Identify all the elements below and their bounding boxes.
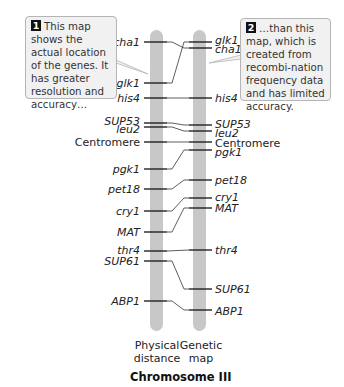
callout-2-number: 2 bbox=[246, 22, 256, 33]
callout-1: 1This map shows the actual location of t… bbox=[25, 16, 117, 99]
chromosome-diagram: cha1glk1his4SUP53leu2Centromerepgk1pet18… bbox=[0, 0, 344, 387]
callout-2-pointer bbox=[209, 55, 241, 63]
physical-label-abp1: ABP1 bbox=[110, 295, 140, 308]
callout-2-text: …than this map, which is created from re… bbox=[246, 23, 325, 112]
connector-mat bbox=[167, 208, 189, 232]
connector-cry1 bbox=[167, 198, 189, 211]
connector-leu2 bbox=[167, 127, 189, 131]
genetic-label-pgk1: pgk1 bbox=[214, 146, 242, 159]
physical-label-pet18: pet18 bbox=[107, 183, 140, 196]
connector-sup61 bbox=[167, 261, 189, 289]
physical-label-line2: distance bbox=[130, 352, 184, 365]
callout-2: 2…than this map, which is created from r… bbox=[240, 18, 331, 101]
physical-label-leu2: leu2 bbox=[116, 123, 140, 136]
physical-label-pgk1: pgk1 bbox=[112, 163, 140, 176]
physical-distance-label: Physical distance bbox=[130, 339, 184, 365]
physical-label-line1: Physical bbox=[130, 339, 184, 352]
marker-connectors bbox=[167, 42, 189, 310]
connector-abp1 bbox=[167, 301, 189, 310]
physical-label-his4: his4 bbox=[117, 92, 140, 105]
genetic-label-line2: map bbox=[178, 352, 224, 365]
genetic-label-pet18: pet18 bbox=[214, 174, 247, 187]
physical-label-cha1: cha1 bbox=[113, 36, 140, 49]
genetic-label-sup61: SUP61 bbox=[215, 283, 251, 296]
figure-title: Chromosome III bbox=[130, 370, 231, 384]
genetic-label-line1: Genetic bbox=[178, 339, 224, 352]
connector-sup53 bbox=[167, 123, 189, 125]
callout-1-number: 1 bbox=[31, 20, 41, 31]
connector-thr4 bbox=[167, 250, 189, 251]
physical-label-mat: MAT bbox=[117, 226, 141, 239]
physical-label-centromere: Centromere bbox=[75, 136, 141, 149]
genetic-label-mat: MAT bbox=[215, 202, 239, 215]
genetic-label-his4: his4 bbox=[215, 92, 238, 105]
physical-label-glk1: glk1 bbox=[117, 77, 140, 90]
genetic-label-thr4: thr4 bbox=[215, 244, 238, 257]
connector-pgk1 bbox=[167, 150, 189, 169]
callout-1-pointer bbox=[116, 60, 148, 74]
connector-cha1 bbox=[167, 42, 189, 48]
callout-1-text: This map shows the actual location of th… bbox=[31, 21, 108, 110]
physical-label-cry1: cry1 bbox=[116, 205, 140, 218]
genetic-label-abp1: ABP1 bbox=[214, 305, 244, 318]
connector-pet18 bbox=[167, 180, 189, 189]
physical-label-sup61: SUP61 bbox=[104, 255, 140, 268]
genetic-map-label: Genetic map bbox=[178, 339, 224, 365]
genetic-label-cha1: cha1 bbox=[215, 43, 242, 56]
physical-map-bar bbox=[150, 30, 163, 331]
